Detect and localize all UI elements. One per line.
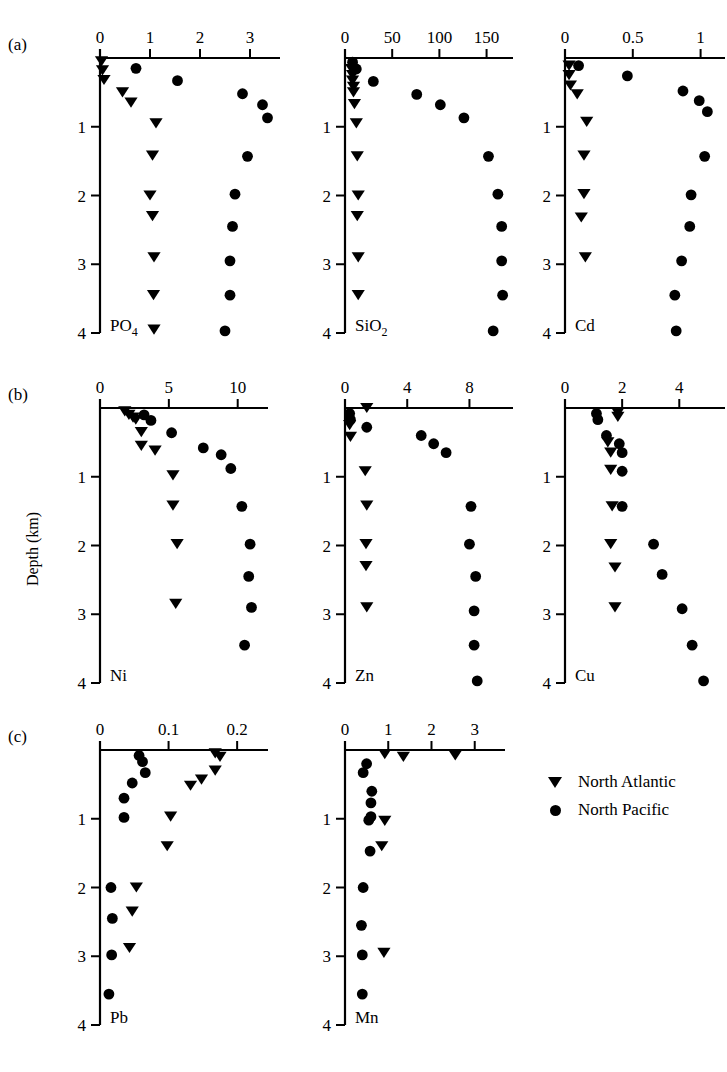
data-point-circle [345,414,356,425]
panel-mn: 01231234Mn [305,714,530,1044]
y-axis-ticks: 1234 [78,468,101,693]
plot-area-sio2: 0501001501234SiO2 [305,22,530,352]
data-point-circle [671,326,682,337]
data-point-circle [216,449,227,460]
panel-ni: 05101234Ni [60,372,305,702]
data-point-circle [363,815,374,826]
y-tick-label: 1 [78,810,87,829]
x-tick-label: 0 [341,28,350,47]
data-point-triangle [352,190,365,200]
data-point-circle [357,989,368,1000]
data-point-circle [678,86,689,97]
data-point-circle [131,63,142,74]
data-point-circle [220,326,231,337]
x-tick-label: 2 [618,378,627,397]
series-north-atlantic [343,403,373,613]
y-tick-label: 3 [78,605,87,624]
data-point-circle [492,189,503,200]
data-point-triangle [449,750,462,760]
y-tick-label: 1 [323,810,332,829]
data-point-circle [107,913,118,924]
data-point-triangle [135,441,148,451]
species-label: Cd [575,316,595,335]
data-point-circle [466,501,477,512]
x-tick-label: 5 [165,378,174,397]
data-point-triangle [352,252,365,262]
y-tick-label: 2 [543,537,552,556]
data-point-circle [687,640,698,651]
data-point-triangle [166,501,179,511]
data-point-triangle [351,151,364,161]
data-point-triangle [352,290,365,300]
series-north-pacific [573,60,713,336]
data-point-triangle [571,89,584,99]
data-point-triangle [397,752,410,762]
data-point-circle [592,414,603,425]
y-tick-label: 4 [78,674,87,693]
x-axis-ticks: 0510 [96,378,246,408]
legend-label-north-pacific: North Pacific [570,800,669,820]
axes [345,741,505,1025]
series-north-atlantic [562,60,593,262]
data-point-circle [172,75,183,86]
data-point-triangle [166,470,179,480]
data-point-triangle [164,812,177,822]
data-point-circle [686,189,697,200]
data-point-triangle [347,87,360,97]
data-point-circle [356,920,367,931]
data-point-triangle [123,943,136,953]
x-tick-label: 8 [465,378,474,397]
data-point-circle [243,571,254,582]
legend-item-north-atlantic: North Atlantic [540,768,727,796]
y-axis-ticks: 1234 [323,810,346,1035]
y-tick-label: 4 [543,324,552,343]
triangle-down-icon [540,777,570,788]
y-axis-ticks: 1234 [323,118,346,343]
x-tick-label: 3 [246,28,255,47]
series-north-atlantic [123,748,227,953]
y-tick-label: 4 [78,1016,87,1035]
y-tick-label: 3 [78,255,87,274]
species-label: Mn [355,1008,379,1027]
y-tick-label: 2 [78,187,87,206]
data-point-circle [472,676,483,687]
data-point-circle [622,70,633,81]
x-tick-label: 0 [96,720,105,739]
data-point-circle [227,221,238,232]
legend-label-north-atlantic: North Atlantic [570,772,676,792]
x-tick-label: 4 [675,378,684,397]
data-point-circle [140,767,151,778]
panel-zn: 0481234Zn [305,372,530,702]
x-tick-label: 4 [403,378,412,397]
panel-pb: 00.10.21234Pb [60,714,305,1044]
data-point-circle [464,539,475,550]
data-point-triangle [577,151,590,161]
data-point-circle [225,290,236,301]
axes [100,741,268,1025]
data-point-circle [416,430,427,441]
data-point-circle [469,640,480,651]
data-point-triangle [611,412,624,422]
series-north-pacific [347,57,508,337]
data-point-triangle [146,211,159,221]
plot-area-pb: 00.10.21234Pb [60,714,305,1044]
data-point-triangle [143,190,156,200]
plot-area-zn: 0481234Zn [305,372,530,702]
y-tick-label: 2 [78,537,87,556]
data-point-triangle [579,252,592,262]
data-point-circle [497,290,508,301]
data-point-triangle [577,189,590,199]
data-point-circle [146,415,157,426]
data-point-triangle [608,562,621,572]
x-tick-label: 0 [561,28,570,47]
series-north-atlantic [375,749,462,958]
data-point-triangle [147,324,160,334]
axes [100,49,280,333]
data-point-triangle [161,841,174,851]
data-point-circle [496,255,507,266]
data-point-circle [357,949,368,960]
x-tick-label: 100 [427,28,453,47]
data-point-circle [127,778,138,789]
panel-row-label-c: (c) [8,728,27,745]
y-tick-label: 3 [543,605,552,624]
